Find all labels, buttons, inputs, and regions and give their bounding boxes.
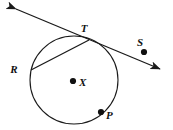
point-label-t: T xyxy=(81,22,89,34)
point-dot-x xyxy=(70,78,76,84)
point-label-p: P xyxy=(106,109,113,121)
point-label-s: S xyxy=(137,36,143,48)
point-dot-s xyxy=(141,49,147,55)
point-label-x: X xyxy=(78,76,87,88)
geometry-figure: T R S X P xyxy=(0,0,173,130)
geometry-diagram-canvas: T R S X P xyxy=(0,0,173,130)
chord-rt xyxy=(31,40,89,70)
point-dot-p xyxy=(98,109,104,115)
point-label-r: R xyxy=(9,63,17,75)
